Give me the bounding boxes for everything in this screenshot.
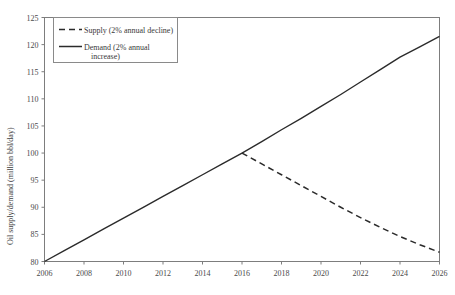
y-tick-label: 110 (27, 95, 39, 104)
legend-label-demand-cont: increase) (91, 52, 120, 61)
oil-supply-demand-chart: Oil supply/demand (million bbl/day) 8085… (0, 0, 455, 295)
y-axis-label: Oil supply/demand (million bbl/day) (6, 127, 15, 245)
y-tick-label: 100 (27, 149, 39, 158)
supply-line (242, 153, 440, 252)
chart-legend: Supply (2% annual decline) Demand (2% an… (54, 18, 178, 63)
y-tick-label: 90 (31, 203, 39, 212)
x-tick-label: 2012 (155, 269, 171, 278)
x-axis-ticks: 2006200820102012201420162018202020222024… (37, 262, 448, 278)
x-tick-label: 2018 (274, 269, 290, 278)
x-tick-label: 2006 (37, 269, 53, 278)
y-tick-label: 85 (31, 230, 39, 239)
x-tick-label: 2024 (392, 269, 408, 278)
x-tick-label: 2014 (195, 269, 211, 278)
y-tick-label: 115 (27, 68, 39, 77)
y-tick-label: 125 (27, 14, 39, 23)
x-tick-label: 2020 (313, 269, 329, 278)
x-tick-label: 2026 (432, 269, 448, 278)
y-axis-ticks: 80859095100105110115120125 (27, 14, 45, 267)
y-tick-label: 80 (31, 258, 39, 267)
x-tick-label: 2010 (116, 269, 132, 278)
legend-label-demand: Demand (2% annual (84, 43, 151, 52)
legend-label-supply: Supply (2% annual decline) (84, 26, 173, 35)
x-tick-label: 2008 (76, 269, 92, 278)
series-group (45, 36, 440, 261)
chart-canvas: Oil supply/demand (million bbl/day) 8085… (0, 0, 455, 295)
x-tick-label: 2016 (234, 269, 250, 278)
demand-line (45, 36, 440, 261)
y-tick-label: 120 (27, 41, 39, 50)
y-tick-label: 95 (31, 176, 39, 185)
x-tick-label: 2022 (353, 269, 369, 278)
y-tick-label: 105 (27, 122, 39, 131)
